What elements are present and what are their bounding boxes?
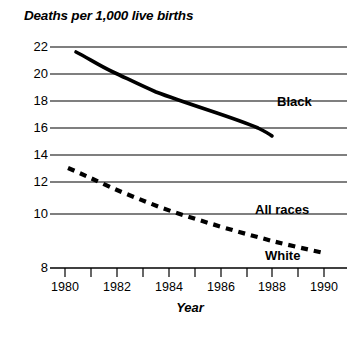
y-tick-label-8: 8 (20, 260, 48, 275)
series-line-black (76, 52, 272, 136)
x-tick-label-1988: 1988 (248, 280, 296, 294)
x-axis-ticks (65, 268, 324, 277)
x-tick-label-1986: 1986 (197, 280, 245, 294)
y-tick-label-12: 12 (20, 174, 48, 189)
y-tick-label-14: 14 (20, 147, 48, 162)
series-label-white: White (265, 248, 300, 263)
x-tick-label-1990: 1990 (300, 280, 348, 294)
infant-mortality-line-chart: Deaths per 1,000 live births (0, 0, 363, 338)
y-tick-label-16: 16 (20, 120, 48, 135)
x-tick-label-1982: 1982 (93, 280, 141, 294)
series-label-black: Black (277, 94, 312, 109)
y-tick-label-20: 20 (20, 66, 48, 81)
x-tick-label-1980: 1980 (41, 280, 89, 294)
series-label-all-races: All races (255, 202, 309, 217)
x-tick-label-1984: 1984 (145, 280, 193, 294)
y-tick-label-10: 10 (20, 206, 48, 221)
y-tick-label-22: 22 (20, 39, 48, 54)
y-tick-label-18: 18 (20, 93, 48, 108)
gridlines (50, 47, 347, 214)
x-axis-title: Year (160, 300, 220, 315)
